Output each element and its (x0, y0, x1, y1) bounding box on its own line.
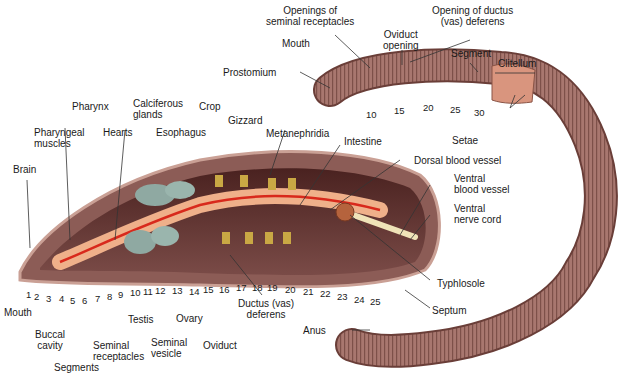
segment-number: 10 (130, 288, 141, 298)
segment-number: 24 (354, 295, 365, 305)
segment-number: 20 (285, 285, 296, 295)
segment-number: 13 (172, 286, 183, 296)
label-mouth-internal: Mouth (4, 307, 32, 318)
segment-number: 16 (219, 285, 230, 295)
label-line: blood vessel (454, 184, 510, 195)
label-typhlosole: Typhlosole (437, 278, 485, 289)
segment-number: 6 (82, 296, 87, 306)
label-setae: Setae (452, 135, 478, 146)
segment-number: 21 (303, 287, 314, 297)
label-mouth-external: Mouth (282, 38, 310, 49)
segment-number: 12 (155, 286, 166, 296)
segment-number: 22 (320, 289, 331, 299)
label-segment: Segment (451, 48, 491, 59)
label-oviduct: Oviduct (203, 340, 237, 351)
label-intestine: Intestine (344, 136, 382, 147)
label-calciferous-glands: Calciferous glands (133, 98, 183, 120)
label-crop: Crop (199, 101, 221, 112)
label-seminal-receptacles: Seminal receptacles (93, 340, 144, 362)
label-line: Oviduct (383, 29, 419, 40)
label-line: muscles (34, 138, 85, 149)
ext-segment-number: 20 (423, 103, 434, 113)
label-line: seminal receptacles (266, 16, 354, 27)
label-esophagus: Esophagus (156, 127, 206, 138)
dissected-worm (20, 152, 439, 287)
label-line: Calciferous (133, 98, 183, 109)
segment-number: 17 (236, 283, 247, 293)
ext-segment-number: 25 (450, 105, 461, 115)
segment-number: 23 (337, 292, 348, 302)
segment-number: 1 (26, 290, 31, 300)
segment-number: 15 (203, 285, 214, 295)
label-ventral-blood-vessel: Ventral blood vessel (454, 173, 510, 195)
label-line: Buccal (35, 329, 65, 340)
label-septum: Septum (432, 305, 466, 316)
segment-number: 11 (143, 287, 153, 297)
label-line: Opening of ductus (432, 5, 513, 16)
earthworm-diagram: Openings of seminal receptacles Opening … (0, 0, 624, 384)
label-openings-seminal-receptacles: Openings of seminal receptacles (266, 5, 354, 27)
ext-segment-number: 15 (394, 106, 405, 116)
label-segments: Segments (54, 362, 99, 373)
label-line: cavity (35, 340, 65, 351)
label-pharynx: Pharynx (72, 101, 109, 112)
label-ductus-deferens: Ductus (vas) deferens (238, 298, 294, 320)
label-ovary: Ovary (176, 313, 203, 324)
label-line: (vas) deferens (432, 16, 513, 27)
segment-number: 8 (107, 292, 112, 302)
label-line: Pharyngeal (34, 127, 85, 138)
segment-number: 7 (95, 294, 100, 304)
label-prostomium: Prostomium (223, 67, 276, 78)
label-testis: Testis (128, 314, 154, 325)
label-anus: Anus (303, 325, 326, 336)
segment-number: 19 (267, 283, 278, 293)
segment-number: 9 (118, 290, 123, 300)
segment-number: 5 (70, 296, 75, 306)
label-buccal-cavity: Buccal cavity (35, 329, 65, 351)
segment-number: 18 (252, 283, 263, 293)
label-ventral-nerve-cord: Ventral nerve cord (454, 203, 501, 225)
segment-number: 3 (46, 294, 51, 304)
label-brain: Brain (13, 164, 36, 175)
label-hearts: Hearts (103, 127, 132, 138)
label-dorsal-blood-vessel: Dorsal blood vessel (414, 155, 501, 166)
ext-segment-number: 10 (366, 110, 377, 120)
label-line: nerve cord (454, 214, 501, 225)
label-pharyngeal-muscles: Pharyngeal muscles (34, 127, 85, 149)
label-line: Openings of (266, 5, 354, 16)
segment-number: 14 (189, 287, 200, 297)
label-line: Ventral (454, 203, 501, 214)
label-line: glands (133, 109, 183, 120)
label-line: Seminal (93, 340, 144, 351)
label-line: opening (383, 40, 419, 51)
segment-number: 2 (34, 292, 39, 302)
label-oviduct-opening: Oviduct opening (383, 29, 419, 51)
label-line: Ductus (vas) (238, 298, 294, 309)
ext-segment-number: 30 (474, 108, 485, 118)
label-line: vesicle (151, 348, 187, 359)
label-clitellum: Clitellum (498, 58, 536, 69)
label-opening-ductus-deferens: Opening of ductus (vas) deferens (432, 5, 513, 27)
segment-number: 4 (59, 294, 64, 304)
label-line: Ventral (454, 173, 510, 184)
label-gizzard: Gizzard (228, 115, 262, 126)
segment-number: 25 (370, 297, 381, 307)
label-line: receptacles (93, 351, 144, 362)
label-line: Seminal (151, 337, 187, 348)
label-metanephridia: Metanephridia (266, 128, 329, 139)
label-seminal-vesicle: Seminal vesicle (151, 337, 187, 359)
label-line: deferens (238, 309, 294, 320)
